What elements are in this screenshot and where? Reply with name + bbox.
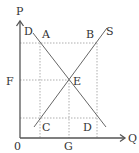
supply-curve-label: S [106, 25, 114, 38]
point-a-label: A [41, 28, 51, 41]
point-d-label: D [83, 121, 92, 134]
point-b-label: B [86, 28, 94, 41]
point-e-label: E [73, 75, 81, 88]
supply-demand-diagram: P Q 0 D S A B E C D F G [0, 0, 139, 153]
price-f-label: F [6, 75, 14, 88]
demand-curve-label: D [24, 25, 33, 38]
point-c-label: C [42, 121, 50, 134]
q-axis-label: Q [128, 132, 137, 145]
origin-label: 0 [14, 140, 21, 153]
p-axis-label: P [16, 5, 24, 18]
quantity-g-label: G [64, 140, 73, 153]
